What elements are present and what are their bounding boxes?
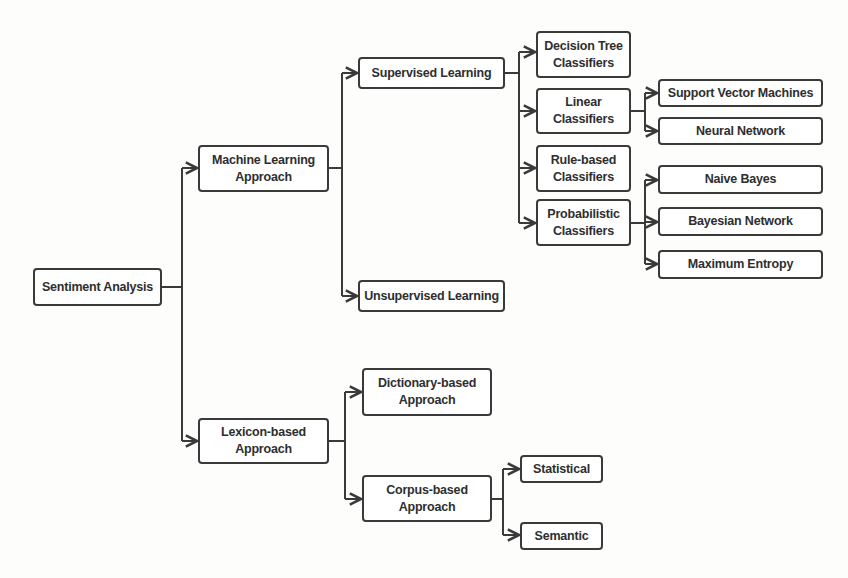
node-label-line1: Machine Learning bbox=[212, 152, 315, 169]
node-label: Unsupervised Learning bbox=[364, 288, 499, 305]
node-supervised-learning: Supervised Learning bbox=[358, 57, 505, 89]
node-label: Support Vector Machines bbox=[668, 85, 813, 102]
node-label: Statistical bbox=[533, 461, 590, 478]
node-label-line1: Linear bbox=[565, 94, 601, 111]
node-label-line2: Approach bbox=[399, 392, 456, 409]
node-probabilistic-classifiers: Probabilistic Classifiers bbox=[536, 199, 631, 246]
node-sentiment-analysis: Sentiment Analysis bbox=[33, 268, 162, 306]
node-label-line2: Approach bbox=[235, 169, 292, 186]
node-label-line1: Dictionary-based bbox=[378, 375, 476, 392]
node-label-line1: Decision Tree bbox=[544, 38, 623, 55]
node-label: Supervised Learning bbox=[372, 65, 492, 82]
node-label: Bayesian Network bbox=[688, 213, 792, 230]
node-semantic: Semantic bbox=[520, 522, 603, 550]
node-machine-learning-approach: Machine Learning Approach bbox=[198, 145, 329, 192]
node-label: Neural Network bbox=[696, 123, 785, 140]
node-label-line2: Classifiers bbox=[553, 111, 614, 128]
node-decision-tree-classifiers: Decision Tree Classifiers bbox=[536, 31, 631, 78]
node-corpus-based-approach: Corpus-based Approach bbox=[362, 475, 492, 522]
node-lexicon-based-approach: Lexicon-based Approach bbox=[198, 418, 329, 464]
node-label: Sentiment Analysis bbox=[42, 279, 153, 296]
node-neural-network: Neural Network bbox=[658, 117, 823, 145]
node-label: Maximum Entropy bbox=[688, 256, 793, 273]
node-label-line1: Corpus-based bbox=[386, 482, 468, 499]
node-naive-bayes: Naive Bayes bbox=[658, 165, 823, 194]
node-label-line1: Rule-based bbox=[551, 152, 616, 169]
node-label-line1: Probabilistic bbox=[547, 206, 619, 223]
node-label: Semantic bbox=[535, 528, 589, 545]
node-label-line2: Approach bbox=[399, 499, 456, 516]
node-linear-classifiers: Linear Classifiers bbox=[536, 88, 631, 134]
node-label-line2: Classifiers bbox=[553, 55, 614, 72]
node-support-vector-machines: Support Vector Machines bbox=[658, 79, 823, 107]
node-label: Naive Bayes bbox=[705, 171, 776, 188]
node-unsupervised-learning: Unsupervised Learning bbox=[358, 280, 505, 312]
node-rule-based-classifiers: Rule-based Classifiers bbox=[536, 145, 631, 192]
node-statistical: Statistical bbox=[520, 455, 603, 483]
node-label-line2: Approach bbox=[235, 441, 292, 458]
node-label-line1: Lexicon-based bbox=[221, 424, 306, 441]
node-dictionary-based-approach: Dictionary-based Approach bbox=[362, 368, 492, 416]
node-bayesian-network: Bayesian Network bbox=[658, 207, 823, 236]
node-maximum-entropy: Maximum Entropy bbox=[658, 250, 823, 279]
node-label-line2: Classifiers bbox=[553, 169, 614, 186]
node-label-line2: Classifiers bbox=[553, 223, 614, 240]
